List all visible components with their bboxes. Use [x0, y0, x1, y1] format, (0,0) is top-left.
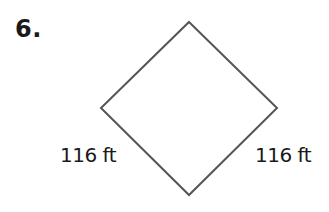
square-diagram	[0, 0, 329, 212]
side-length-label-left: 116 ft	[60, 145, 116, 165]
side-length-label-right: 116 ft	[255, 145, 311, 165]
diamond-shape	[101, 22, 277, 195]
